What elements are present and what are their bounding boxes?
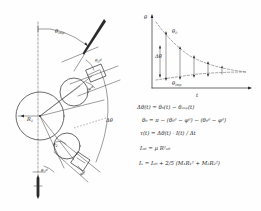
label-phi-lower: φd <box>80 170 85 176</box>
upper-block-axis <box>70 66 118 84</box>
needle-pointer <box>83 19 106 55</box>
chart-annotation-thetaimp: θimp <box>172 80 182 87</box>
chart-annotation-theta0: θ0 <box>172 28 177 35</box>
upper-block <box>86 64 106 82</box>
equation-line-1: Δθ(t) = θ₀(t) − θᵢₘₚ(t) <box>136 104 194 110</box>
needle-stem <box>74 55 84 71</box>
delta-theta-outer-arc <box>96 70 108 162</box>
chart-xlabel: t <box>196 92 199 98</box>
label-theta-imp: θimp <box>55 28 65 35</box>
kinematic-diagram: θimp R1 Δθ θ0d φd θ2 θ0d φd <box>16 19 120 199</box>
label-theta-2: θ2 <box>53 142 58 148</box>
label-theta0-upper: θ0d <box>95 58 102 65</box>
chart-annotation-deltatheta: Δθ <box>154 53 163 59</box>
spoke-mid <box>40 100 104 116</box>
equation-line-2: θ₀ = π − (θ₀ᵈ − φᵈ) − (θ₀ᵈ − φᵈ) <box>142 117 226 124</box>
equation-line-3: τ(t) = Δθ(t) · I(t) / Δt <box>140 130 197 136</box>
chart-gap-arrows <box>165 31 223 81</box>
equation-block: Δθ(t) = θ₀(t) − θᵢₘₚ(t) θ₀ = π − (θ₀ᵈ − … <box>136 104 226 166</box>
equation-line-4: Iₙ₀ = μ R²ₙ₀ <box>139 145 171 152</box>
chart-ylabel: θ <box>144 14 148 20</box>
theta-imp-arc-arrow <box>84 42 88 46</box>
chart-y-arrowhead <box>151 14 154 18</box>
spoke-upper-2 <box>40 76 92 116</box>
chart-x-arrowhead <box>248 87 252 90</box>
label-radius-R1: R1 <box>26 116 33 123</box>
equation-line-5: Iₛ = Iₙ₀ + 2/5 (M₁R₁² + M₂R₂²) <box>138 160 220 166</box>
radius-arrowhead <box>21 115 25 118</box>
chart-curve-theta0 <box>156 22 246 72</box>
delta-theta-ray <box>74 118 106 128</box>
chart-delta-theta-arrow <box>159 45 161 78</box>
needle-cross-line <box>62 47 98 62</box>
chart-curve-thetaimp <box>156 72 246 80</box>
label-theta0-lower: θ0d <box>41 168 48 175</box>
label-delta-theta-diagram: Δθ <box>105 117 114 123</box>
figure-canvas: θimp R1 Δθ θ0d φd θ2 θ0d φd <box>0 0 261 211</box>
label-phi-upper: φd <box>88 85 93 91</box>
convergence-chart: θ t θ0 θimp Δθ <box>144 14 252 98</box>
sketch-sheet: θimp R1 Δθ θ0d φd θ2 θ0d φd <box>0 0 261 211</box>
down-arrow <box>37 175 40 199</box>
